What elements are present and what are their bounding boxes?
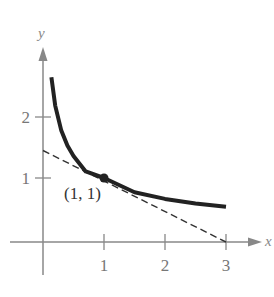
- x-tick-label-3: 3: [222, 256, 231, 275]
- x-tick-label-1: 1: [100, 256, 109, 275]
- tangent-point: [100, 174, 109, 183]
- y-tick-label-2: 2: [22, 108, 31, 127]
- x-axis-label: x: [264, 233, 272, 249]
- y-tick-label-1: 1: [22, 169, 31, 188]
- x-tick-label-2: 2: [161, 256, 170, 275]
- point-label: (1, 1): [64, 184, 101, 203]
- x-axis-arrow-icon: [248, 238, 262, 247]
- y-axis-arrow-icon: [39, 47, 48, 61]
- chart: 1 2 3 1 2 x y (1, 1): [0, 0, 274, 297]
- y-axis-label: y: [36, 25, 45, 41]
